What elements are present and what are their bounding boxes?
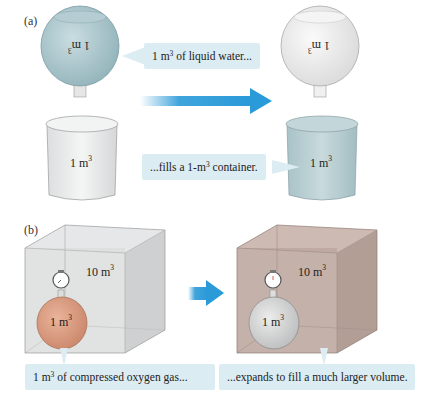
beaker-left-volume-label: 1 m3 — [70, 156, 92, 171]
callout-text: 1 m — [152, 50, 170, 62]
callout-expands: ...expands to fill a much larger volume. — [219, 364, 415, 390]
volume-value: 10 m — [298, 265, 322, 279]
volume-value: 1 m — [50, 315, 68, 329]
flask-left-volume-label: 1 m3 — [68, 38, 90, 53]
volume-exp: 3 — [322, 263, 326, 272]
volume-exp: 3 — [328, 154, 332, 163]
arrow-right-icon-b — [188, 280, 224, 306]
callout-fills-container: ...fills a 1-m3 container. — [142, 154, 266, 180]
volume-value: 1 — [84, 39, 90, 53]
box-right-volume-label: 10 m3 — [298, 265, 326, 280]
flask-right-volume-label: 1 m3 — [308, 38, 330, 53]
volume-exp: 3 — [88, 154, 92, 163]
volume-value: 1 m — [70, 156, 88, 170]
callout-exp: 3 — [206, 160, 210, 169]
callout-liquid-water: 1 m3 of liquid water... — [144, 43, 260, 69]
volume-value: 10 m — [86, 265, 110, 279]
beaker-right-volume-label: 1 m3 — [310, 156, 332, 171]
callout-text: container. — [210, 161, 258, 173]
gas-flask-left-volume-label: 1 m3 — [50, 315, 72, 330]
volume-unit: m — [312, 39, 321, 53]
panel-label-b: (b) — [24, 223, 38, 238]
volume-exp: 3 — [68, 46, 72, 55]
callout-exp: 3 — [170, 49, 174, 58]
volume-exp: 3 — [280, 313, 284, 322]
volume-value: 1 m — [262, 315, 280, 329]
callout-text: of liquid water... — [173, 50, 252, 62]
callout-text: of compressed oxygen gas... — [54, 371, 187, 383]
gas-flask-right-volume-label: 1 m3 — [262, 315, 284, 330]
volume-exp: 3 — [68, 313, 72, 322]
arrow-right-icon — [140, 88, 272, 114]
volume-value: 1 m — [310, 156, 328, 170]
volume-exp: 3 — [308, 46, 312, 55]
volume-exp: 3 — [110, 263, 114, 272]
callout-text: 1 m — [33, 371, 51, 383]
callout-compressed-oxygen: 1 m3 of compressed oxygen gas... — [25, 364, 215, 390]
volume-value: 1 — [324, 39, 330, 53]
callout-text: ...fills a 1-m — [150, 161, 206, 173]
panel-label-a: (a) — [24, 14, 37, 29]
box-left-volume-label: 10 m3 — [86, 265, 114, 280]
callout-exp: 3 — [51, 370, 55, 379]
volume-unit: m — [72, 39, 81, 53]
